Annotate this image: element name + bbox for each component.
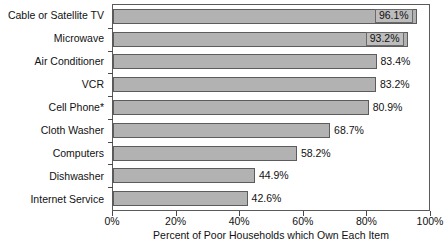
bar-row: 80.9% xyxy=(113,96,429,119)
bar-value-label: 58.2% xyxy=(301,148,331,159)
plot-area: 96.1%93.2%83.4%83.2%80.9%68.7%58.2%44.9%… xyxy=(112,4,430,211)
category-tick: Cell Phone* xyxy=(0,96,108,119)
bar xyxy=(113,123,330,138)
category-tick: Computers xyxy=(0,142,108,165)
bar-value-label: 68.7% xyxy=(334,125,364,136)
y-axis-tick xyxy=(108,96,113,97)
bar-value-label: 80.9% xyxy=(373,102,403,113)
y-axis-tick xyxy=(108,51,113,52)
bar xyxy=(113,54,377,69)
x-axis-tick-label: 60% xyxy=(292,215,313,227)
category-tick: Cable or Satellite TV xyxy=(0,4,108,27)
bar xyxy=(113,100,369,115)
bar xyxy=(113,191,248,206)
category-label: Microwave xyxy=(54,33,104,44)
category-label: Computers xyxy=(53,148,104,159)
category-label: Internet Service xyxy=(30,194,104,205)
bar-value-label: 44.9% xyxy=(259,170,289,181)
bar-value-label: 83.2% xyxy=(380,79,410,90)
bar: 93.2% xyxy=(113,32,408,47)
bar-value-label: 93.2% xyxy=(366,32,404,46)
y-axis-tick xyxy=(108,73,113,74)
bar-row: 96.1% xyxy=(113,5,429,28)
x-axis-tick-label: 20% xyxy=(165,215,186,227)
category-tick: Dishwasher xyxy=(0,165,108,188)
category-tick: Microwave xyxy=(0,27,108,50)
y-axis-tick xyxy=(108,187,113,188)
category-label: Air Conditioner xyxy=(35,56,104,67)
x-axis-tick-label: 100% xyxy=(417,215,444,227)
category-label: Cable or Satellite TV xyxy=(8,10,104,21)
bar-row: 93.2% xyxy=(113,28,429,51)
category-tick: Internet Service xyxy=(0,188,108,211)
bar-value-label: 96.1% xyxy=(375,9,413,23)
bar-row: 42.6% xyxy=(113,187,429,210)
x-axis-title: Percent of Poor Households which Own Eac… xyxy=(112,229,430,241)
bar xyxy=(113,146,297,161)
category-axis: Cable or Satellite TV Microwave Air Cond… xyxy=(0,4,108,211)
bar-row: 58.2% xyxy=(113,142,429,165)
x-axis-tick-labels: 0%20%40%60%80%100% xyxy=(112,215,430,229)
x-axis-tick-label: 80% xyxy=(356,215,377,227)
bar-row: 68.7% xyxy=(113,119,429,142)
y-axis-tick xyxy=(108,142,113,143)
bar-row: 83.2% xyxy=(113,73,429,96)
bar-value-label: 42.6% xyxy=(252,193,282,204)
category-tick: VCR xyxy=(0,73,108,96)
bar-row: 44.9% xyxy=(113,164,429,187)
category-tick: Cloth Washer xyxy=(0,119,108,142)
bars-container: 96.1%93.2%83.4%83.2%80.9%68.7%58.2%44.9%… xyxy=(113,5,429,210)
y-axis-tick xyxy=(108,28,113,29)
bar-chart: Cable or Satellite TV Microwave Air Cond… xyxy=(0,0,446,250)
bar xyxy=(113,168,255,183)
x-axis-tick-label: 40% xyxy=(229,215,250,227)
chart-footnote xyxy=(112,243,442,250)
bar xyxy=(113,77,376,92)
category-tick: Air Conditioner xyxy=(0,50,108,73)
y-axis-tick xyxy=(108,164,113,165)
category-label: Cloth Washer xyxy=(41,125,104,136)
bar: 96.1% xyxy=(113,9,417,24)
category-label: VCR xyxy=(82,79,104,90)
x-axis-tick-label: 0% xyxy=(104,215,119,227)
y-axis-tick xyxy=(108,119,113,120)
category-label: Cell Phone* xyxy=(49,102,104,113)
bar-value-label: 83.4% xyxy=(381,56,411,67)
category-label: Dishwasher xyxy=(49,171,104,182)
bar-row: 83.4% xyxy=(113,51,429,74)
